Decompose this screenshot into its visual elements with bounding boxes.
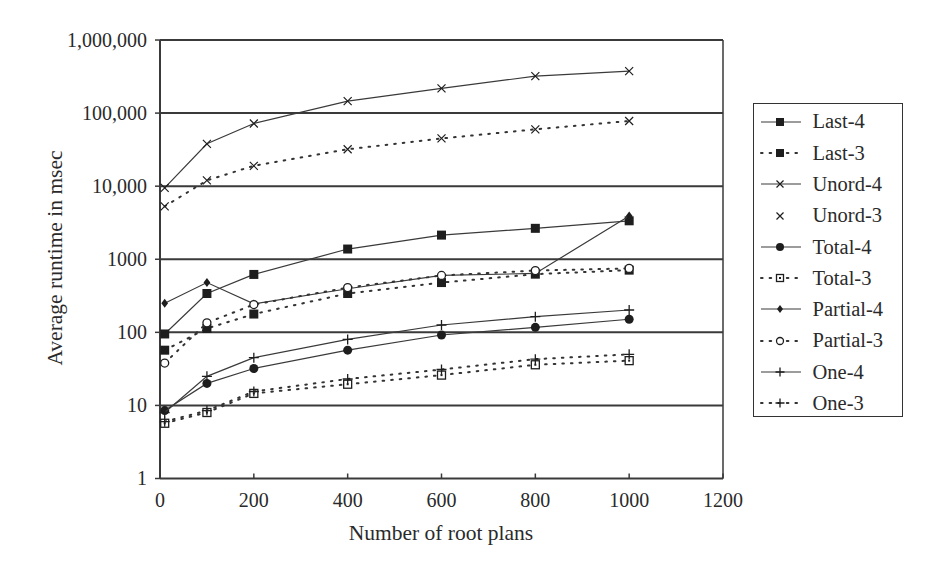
legend-item-partial-3: Partial-3 bbox=[754, 325, 902, 356]
series-one-3 bbox=[160, 349, 634, 426]
data-point-marker bbox=[625, 315, 634, 324]
y-tick-label: 10,000 bbox=[92, 175, 147, 197]
legend-item-unord-4: Unord-4 bbox=[754, 169, 902, 200]
data-point-marker bbox=[531, 267, 539, 275]
legend-item-total-3: Total-3 bbox=[754, 262, 902, 293]
legend-label: Last-3 bbox=[813, 143, 865, 164]
y-tick-label: 100,000 bbox=[82, 102, 147, 124]
data-point-marker bbox=[250, 120, 258, 128]
series-last-4 bbox=[160, 216, 633, 338]
legend-swatch-unord-4 bbox=[760, 174, 802, 194]
data-point-marker bbox=[161, 202, 169, 210]
series-last-3 bbox=[160, 266, 633, 355]
legend-item-partial-4: Partial-4 bbox=[754, 294, 902, 325]
x-tick-label: 1200 bbox=[703, 489, 743, 511]
legend-label: Total-4 bbox=[813, 237, 872, 258]
data-point-marker bbox=[249, 364, 258, 373]
legend-item-one-4: One-4 bbox=[754, 356, 902, 387]
series-unord-3 bbox=[161, 117, 633, 210]
legend-item-unord-3: Unord-3 bbox=[754, 200, 902, 231]
data-point-marker bbox=[343, 334, 353, 344]
legend-swatch-one-3 bbox=[760, 393, 802, 413]
legend-item-last-3: Last-3 bbox=[754, 137, 902, 168]
data-point-marker bbox=[161, 184, 169, 192]
legend-item-total-4: Total-4 bbox=[754, 231, 902, 262]
data-point-marker bbox=[249, 353, 259, 363]
y-tick-label: 10 bbox=[127, 394, 147, 416]
filled-square-marker-icon bbox=[776, 118, 784, 126]
y-tick-label: 1,000,000 bbox=[67, 29, 147, 51]
y-tick-label: 1000 bbox=[107, 248, 147, 270]
legend-item-one-3: One-3 bbox=[754, 388, 902, 419]
data-point-marker bbox=[343, 245, 352, 254]
plot-series bbox=[160, 67, 634, 427]
legend-label: Unord-3 bbox=[813, 205, 882, 226]
legend-swatch-total-3 bbox=[760, 268, 802, 288]
data-point-marker bbox=[160, 346, 169, 355]
data-point-marker bbox=[531, 224, 540, 233]
y-axis-title: Average runtime in msec bbox=[43, 150, 67, 365]
legend: Last-4 Last-3 Unord-4 Unord-3 Total-4 To… bbox=[753, 103, 903, 417]
y-tick-label: 1 bbox=[137, 467, 147, 489]
legend-label: Last-4 bbox=[813, 111, 865, 132]
open-circle-marker-icon bbox=[776, 337, 783, 344]
legend-swatch-last-4 bbox=[760, 112, 802, 132]
filled-diamond-marker-icon bbox=[777, 305, 783, 313]
data-point-marker bbox=[344, 284, 352, 292]
data-point-marker bbox=[249, 270, 258, 279]
legend-swatch-partial-3 bbox=[760, 331, 802, 351]
data-point-marker bbox=[203, 140, 211, 148]
plus-marker-icon bbox=[775, 399, 784, 408]
series-line-last-4 bbox=[165, 221, 629, 334]
x-tick-label: 400 bbox=[333, 489, 363, 511]
axes: 110100100010,000100,0001,000,00002004006… bbox=[67, 29, 743, 511]
x-tick-label: 800 bbox=[520, 489, 550, 511]
data-point-marker bbox=[202, 289, 211, 298]
data-point-marker bbox=[249, 310, 258, 319]
plus-marker-icon bbox=[775, 368, 784, 377]
legend-swatch-one-4 bbox=[760, 362, 802, 382]
legend-label: Total-3 bbox=[813, 268, 872, 289]
legend-label: One-4 bbox=[813, 362, 864, 383]
x-axis-title: Number of root plans bbox=[349, 521, 534, 545]
legend-label: Unord-4 bbox=[813, 174, 882, 195]
legend-swatch-last-3 bbox=[760, 143, 802, 163]
open-square-marker-icon bbox=[776, 275, 783, 282]
data-point-marker bbox=[438, 271, 446, 279]
data-point-marker bbox=[437, 231, 446, 240]
x-marker-icon bbox=[776, 212, 783, 219]
data-point-marker bbox=[530, 312, 540, 322]
y-tick-label: 100 bbox=[117, 321, 147, 343]
legend-label: Partial-4 bbox=[813, 299, 884, 320]
gridlines bbox=[160, 40, 723, 478]
data-point-marker bbox=[625, 264, 633, 272]
series-total-3 bbox=[161, 357, 633, 428]
legend-swatch-partial-4 bbox=[760, 299, 802, 319]
data-point-marker bbox=[161, 359, 169, 367]
data-point-marker bbox=[437, 320, 447, 330]
series-unord-4 bbox=[161, 67, 633, 192]
filled-circle-marker-icon bbox=[776, 243, 784, 251]
data-point-marker bbox=[161, 299, 168, 308]
legend-item-last-4: Last-4 bbox=[754, 106, 902, 137]
legend-swatch-unord-3 bbox=[760, 206, 802, 226]
legend-label: One-3 bbox=[813, 393, 864, 414]
data-point-marker bbox=[531, 323, 540, 332]
data-point-marker bbox=[203, 319, 211, 327]
data-point-marker bbox=[343, 346, 352, 355]
series-partial-3 bbox=[161, 264, 633, 367]
legend-label: Partial-3 bbox=[813, 330, 884, 351]
series-line-total-3 bbox=[165, 361, 629, 424]
series-line-one-3 bbox=[165, 354, 629, 421]
x-tick-label: 0 bbox=[155, 489, 165, 511]
filled-square-marker-icon bbox=[776, 149, 784, 157]
x-tick-label: 200 bbox=[239, 489, 269, 511]
data-point-marker bbox=[160, 329, 169, 338]
data-point-marker bbox=[437, 330, 446, 339]
series-line-unord-4 bbox=[165, 71, 629, 188]
legend-swatch-total-4 bbox=[760, 237, 802, 257]
x-tick-label: 1000 bbox=[609, 489, 649, 511]
series-line-unord-3 bbox=[165, 121, 629, 206]
data-point-marker bbox=[250, 301, 258, 309]
data-point-marker bbox=[624, 305, 634, 315]
